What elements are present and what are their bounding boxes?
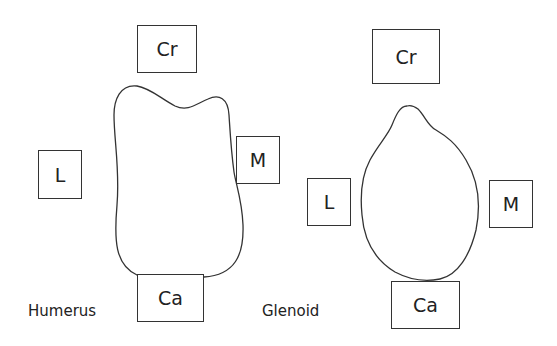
humerus-lateral-label: L [55, 164, 66, 186]
humerus-medial-label: M [250, 149, 266, 171]
glenoid-caudal-label: Ca [413, 294, 438, 316]
glenoid-medial-label: M [503, 193, 519, 215]
humerus-cranial-label: Cr [156, 38, 177, 60]
glenoid-lateral-box: L [307, 178, 351, 226]
humerus-lateral-box: L [38, 150, 82, 199]
humerus-caudal-label: Ca [158, 287, 183, 309]
glenoid-medial-box: M [489, 180, 533, 228]
glenoid-caudal-box: Ca [391, 281, 460, 329]
glenoid-lateral-label: L [324, 191, 335, 213]
humerus-medial-box: M [236, 136, 280, 184]
glenoid-cranial-label: Cr [395, 46, 416, 68]
humerus-caudal-box: Ca [137, 274, 204, 322]
humerus-cranial-box: Cr [137, 25, 197, 73]
glenoid-cranial-box: Cr [372, 29, 440, 84]
humerus-title: Humerus [28, 302, 96, 320]
glenoid-outline [361, 106, 478, 281]
humerus-outline [114, 86, 243, 277]
glenoid-title: Glenoid [262, 302, 319, 320]
